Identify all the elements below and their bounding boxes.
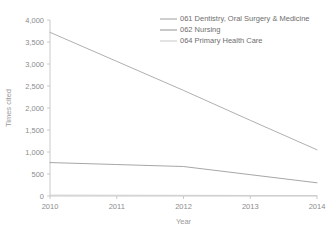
x-tick-label: 2012 (175, 202, 192, 211)
chart-legend: 061 Dentistry, Oral Surgery & Medicine06… (160, 14, 310, 45)
x-tick-label: 2014 (309, 202, 326, 211)
x-axis-ticks: 20102011201220132014 (42, 196, 326, 211)
series-lines (50, 32, 317, 195)
x-axis-title: Year (176, 217, 192, 226)
series-line-0 (50, 32, 317, 149)
line-chart: 05001,0001,5002,0002,5003,0003,5004,000 … (0, 0, 336, 237)
legend-label-2: 064 Primary Health Care (180, 36, 263, 45)
y-axis-title: Times cited (4, 89, 13, 127)
y-tick-label: 2,500 (25, 82, 44, 91)
legend-label-0: 061 Dentistry, Oral Surgery & Medicine (180, 14, 310, 23)
y-tick-label: 3,000 (25, 60, 44, 69)
y-tick-label: 4,000 (25, 16, 44, 25)
y-axis-ticks: 05001,0001,5002,0002,5003,0003,5004,000 (25, 16, 50, 201)
series-line-1 (50, 163, 317, 183)
y-tick-label: 0 (40, 192, 44, 201)
x-tick-label: 2010 (42, 202, 59, 211)
chart-plot-area: 05001,0001,5002,0002,5003,0003,5004,000 … (0, 0, 336, 237)
y-tick-label: 1,500 (25, 126, 44, 135)
y-tick-label: 1,000 (25, 148, 44, 157)
y-tick-label: 500 (31, 170, 44, 179)
axis-lines (50, 20, 317, 196)
x-tick-label: 2011 (109, 202, 125, 211)
y-tick-label: 3,500 (25, 38, 44, 47)
y-tick-label: 2,000 (25, 104, 44, 113)
x-tick-label: 2013 (242, 202, 259, 211)
legend-label-1: 062 Nursing (180, 25, 220, 34)
